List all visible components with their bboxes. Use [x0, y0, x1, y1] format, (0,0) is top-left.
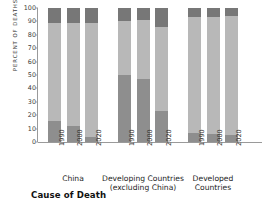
- bar[interactable]: [207, 8, 220, 142]
- y-tick-mark: [36, 128, 39, 129]
- y-tick-label: 100: [24, 4, 36, 12]
- bar-segment-top: [188, 8, 201, 17]
- bar-segment-top: [207, 8, 220, 17]
- bar-segment-top: [118, 8, 131, 21]
- bar[interactable]: [67, 8, 80, 142]
- x-tick-label: 1990: [198, 129, 206, 146]
- x-tick-label: 2020: [165, 129, 173, 146]
- plot-area: 0102030405060708090100: [38, 8, 260, 142]
- x-tick-label: 1990: [58, 129, 66, 146]
- bar[interactable]: [118, 8, 131, 142]
- bar[interactable]: [188, 8, 201, 142]
- y-tick-mark: [36, 101, 39, 102]
- bar-segment-middle: [207, 17, 220, 134]
- bar[interactable]: [155, 8, 168, 142]
- x-tick-label: 2000: [216, 129, 224, 146]
- x-tick-label: 1990: [128, 129, 136, 146]
- bar[interactable]: [137, 8, 150, 142]
- bar[interactable]: [225, 8, 238, 142]
- chart-container: PERCENT OF DEATHS 0102030405060708090100…: [0, 0, 268, 204]
- group-label-line: Countries: [153, 183, 268, 192]
- y-tick-mark: [36, 142, 39, 143]
- bar-segment-middle: [225, 16, 238, 135]
- y-tick-mark: [36, 75, 39, 76]
- y-tick-mark: [36, 48, 39, 49]
- y-tick-mark: [36, 61, 39, 62]
- y-tick-mark: [36, 88, 39, 89]
- x-tick-label: 2000: [76, 129, 84, 146]
- y-tick-mark: [36, 8, 39, 9]
- bar-segment-middle: [85, 23, 98, 137]
- bar[interactable]: [85, 8, 98, 142]
- group-label-line: Developed: [153, 174, 268, 183]
- bar-segment-middle: [155, 27, 168, 111]
- bar-segment-middle: [118, 21, 131, 75]
- y-axis-title: PERCENT OF DEATHS: [12, 0, 18, 90]
- bar-segment-middle: [67, 23, 80, 126]
- bar-segment-top: [67, 8, 80, 23]
- x-tick-label: 2020: [235, 129, 243, 146]
- group-label: DevelopedCountries: [153, 174, 268, 192]
- bar-segment-top: [48, 8, 61, 23]
- bar-segment-top: [155, 8, 168, 27]
- bar-segment-top: [225, 8, 238, 16]
- bar-segment-middle: [48, 23, 61, 121]
- chart-caption: Cause of Death: [31, 190, 106, 200]
- bar[interactable]: [48, 8, 61, 142]
- bar-segment-top: [137, 8, 150, 20]
- x-tick-label: 2020: [95, 129, 103, 146]
- bar-segment-middle: [137, 20, 150, 79]
- y-tick-mark: [36, 34, 39, 35]
- bar-segment-top: [85, 8, 98, 23]
- bar-segment-middle: [188, 17, 201, 132]
- y-tick-mark: [36, 21, 39, 22]
- x-tick-label: 2000: [146, 129, 154, 146]
- y-tick-mark: [36, 115, 39, 116]
